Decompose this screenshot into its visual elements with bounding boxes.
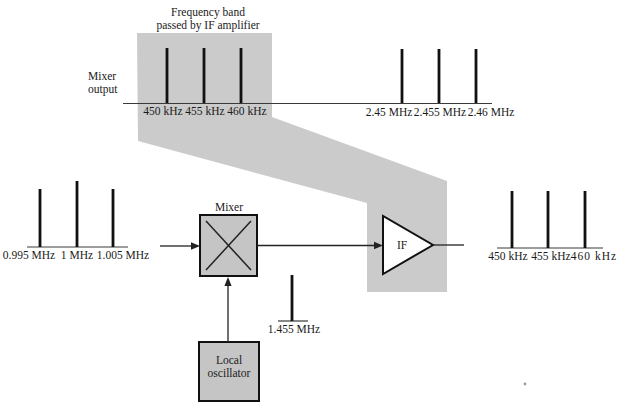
mixer-block-label: Mixer (215, 201, 243, 214)
tick-label-1005mhz: 1.005 MHz (97, 249, 149, 262)
tick-label-460khz-out: 460 kHz (571, 250, 617, 263)
tick-label-450khz-out: 450 kHz (488, 250, 527, 263)
passband-annotation-line1: Frequency band (171, 6, 245, 19)
mixer-output-caption-line2: output (88, 83, 117, 96)
tick-label-246mhz: 2.46 MHz (468, 106, 515, 119)
passband-annotation-line2: passed by IF amplifier (156, 19, 259, 32)
lo-block-label-line1: Local (216, 354, 242, 367)
mixer-output-caption-line1: Mixer (88, 70, 116, 83)
tick-label-455khz-top: 455 kHz (185, 105, 224, 118)
tick-label-450khz-top: 450 kHz (143, 105, 182, 118)
input-to-mixer-arrowhead (191, 242, 200, 250)
tick-label-245mhz: 2.45 MHz (366, 106, 413, 119)
tick-label-455khz-out: 455 kHz (531, 250, 570, 263)
tick-label-1mhz: 1 MHz (61, 249, 93, 262)
lo-block-label-line2: oscillator (208, 367, 251, 380)
stray-print-dot (524, 383, 527, 386)
tick-label-1455mhz: 1.455 MHz (268, 323, 320, 336)
figure-superheterodyne-diagram: Frequency band passed by IF amplifier Mi… (0, 0, 627, 416)
tick-label-2455mhz: 2.455 MHz (414, 106, 466, 119)
diagram-canvas (0, 0, 627, 416)
if-amp-label: IF (397, 239, 407, 252)
tick-label-0995mhz: 0.995 MHz (3, 249, 55, 262)
lo-to-mixer-arrowhead (224, 277, 231, 286)
tick-label-460khz-top: 460 kHz (227, 105, 266, 118)
